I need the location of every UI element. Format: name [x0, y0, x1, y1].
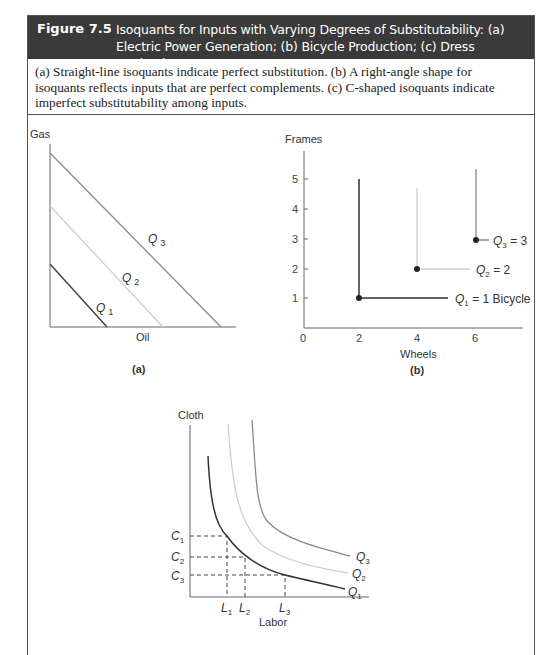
svg-text:3: 3	[292, 233, 298, 245]
chart-b-q1-corner	[356, 295, 362, 301]
svg-text:4: 4	[414, 332, 420, 344]
svg-text:C2: C2	[171, 550, 185, 566]
chart-b-q2-isoquant	[417, 188, 470, 269]
chart-b-title: (b)	[410, 364, 424, 376]
chart-a-xlabel: Oil	[136, 331, 149, 343]
chart-b: Frames 5 4 3 2 1 0 2 4 6 Q3 = 3 Q2 = 2 Q…	[285, 133, 531, 376]
svg-text:C3: C3	[171, 569, 185, 585]
chart-a-ylabel: Gas	[30, 128, 51, 140]
chart-c-xtick-labels: L1 L2 L3	[221, 601, 291, 617]
chart-b-q1-isoquant	[359, 179, 448, 298]
chart-a-title: (a)	[132, 363, 146, 375]
chart-c-ytick-labels: C1 C2 C3	[171, 529, 185, 585]
svg-text:1: 1	[292, 292, 298, 304]
svg-text:L2: L2	[239, 601, 251, 617]
chart-c-q1-label: Q1	[348, 585, 362, 601]
chart-b-xticks: 0 2 4 6	[300, 332, 478, 344]
chart-b-q2-corner	[414, 266, 420, 272]
chart-a: Gas Q3 Q2 Q1 Oil (a)	[30, 128, 236, 375]
chart-b-q3-label: Q3 = 3	[493, 234, 527, 250]
chart-b-ylabel: Frames	[285, 133, 323, 145]
chart-a-q2-line	[50, 206, 163, 327]
chart-a-q2-label: Q2	[122, 271, 139, 287]
chart-c-q3-label: Q3	[356, 550, 370, 566]
chart-a-q3-line	[50, 153, 221, 327]
svg-text:2: 2	[356, 332, 362, 344]
svg-text:4: 4	[292, 203, 298, 215]
chart-a-q3-label: Q3	[148, 232, 165, 248]
chart-b-q3-corner	[473, 237, 479, 243]
chart-c: Cloth C1 C2 C3 L1 L2 L3 Q3 Q2 Q1 Labor	[171, 409, 370, 627]
chart-b-q1-label: Q1 = 1 Bicycle	[455, 292, 531, 308]
chart-c-q2-label: Q2	[352, 567, 366, 583]
svg-text:L3: L3	[279, 601, 291, 617]
chart-b-q3-isoquant	[476, 169, 489, 240]
chart-b-xlabel: Wheels	[400, 348, 437, 360]
chart-b-q2-label: Q2 = 2	[476, 263, 510, 279]
chart-c-ylabel: Cloth	[178, 409, 204, 421]
svg-text:L1: L1	[221, 601, 233, 617]
chart-a-q1-label: Q1	[96, 301, 113, 317]
svg-text:6: 6	[472, 332, 478, 344]
chart-c-xlabel: Labor	[259, 616, 287, 627]
svg-text:5: 5	[292, 173, 298, 185]
svg-text:2: 2	[292, 263, 298, 275]
chart-a-q1-line	[50, 264, 107, 327]
svg-text:C1: C1	[171, 529, 185, 545]
svg-text:0: 0	[300, 332, 306, 344]
chart-b-yticks: 5 4 3 2 1	[292, 173, 308, 304]
chart-c-q3-curve	[252, 420, 350, 556]
chart-c-guides	[190, 536, 285, 597]
